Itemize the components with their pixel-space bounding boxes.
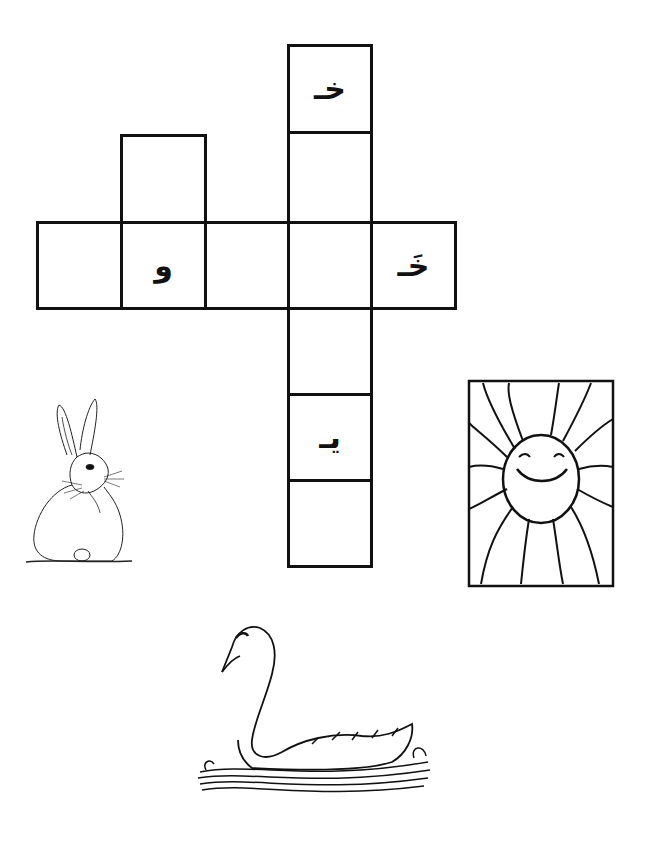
crossword-cell-h1[interactable] (36, 221, 123, 310)
sun-icon (467, 379, 615, 588)
crossword-cell-v6[interactable] (287, 479, 373, 568)
crossword-cell-v5[interactable]: يـ (287, 393, 373, 482)
crossword-cell-v3[interactable] (287, 221, 373, 310)
crossword-cell-v4[interactable] (287, 307, 373, 396)
crossword-cell-h2[interactable]: و (120, 221, 207, 310)
rabbit-icon (22, 395, 142, 570)
crossword-cell-h3[interactable] (204, 221, 290, 310)
cell-letter: خـ (314, 74, 346, 104)
cell-letter: يـ (319, 423, 341, 453)
cell-letter: خَـ (398, 251, 430, 281)
crossword-cell-extra[interactable] (120, 134, 207, 224)
crossword-cell-v1[interactable]: خـ (287, 44, 373, 134)
swan-icon (192, 612, 437, 797)
crossword-cell-h5[interactable]: خَـ (370, 221, 457, 310)
crossword-cell-v2[interactable] (287, 131, 373, 224)
cell-letter: و (154, 251, 173, 281)
